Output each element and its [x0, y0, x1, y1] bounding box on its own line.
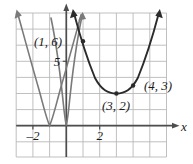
x-tick-label-pos2: 2: [96, 128, 103, 143]
y-tick-label-5: 5: [54, 54, 61, 69]
point-marker-3-2: [114, 91, 118, 95]
x-tick-label-neg2: –2: [25, 128, 40, 143]
x-axis-label: x: [180, 119, 187, 134]
point-label-3-2: (3, 2): [102, 98, 130, 113]
point-marker-4-3: [131, 83, 135, 87]
point-label-4-3: (4, 3): [144, 78, 172, 93]
graph-svg: (1, 6) (3, 2) (4, 3) 5 –2 2 x: [0, 0, 193, 164]
point-marker-1-6: [81, 39, 85, 43]
point-label-1-6: (1, 6): [34, 34, 62, 49]
parabola-graph-figure: (1, 6) (3, 2) (4, 3) 5 –2 2 x: [0, 0, 193, 164]
